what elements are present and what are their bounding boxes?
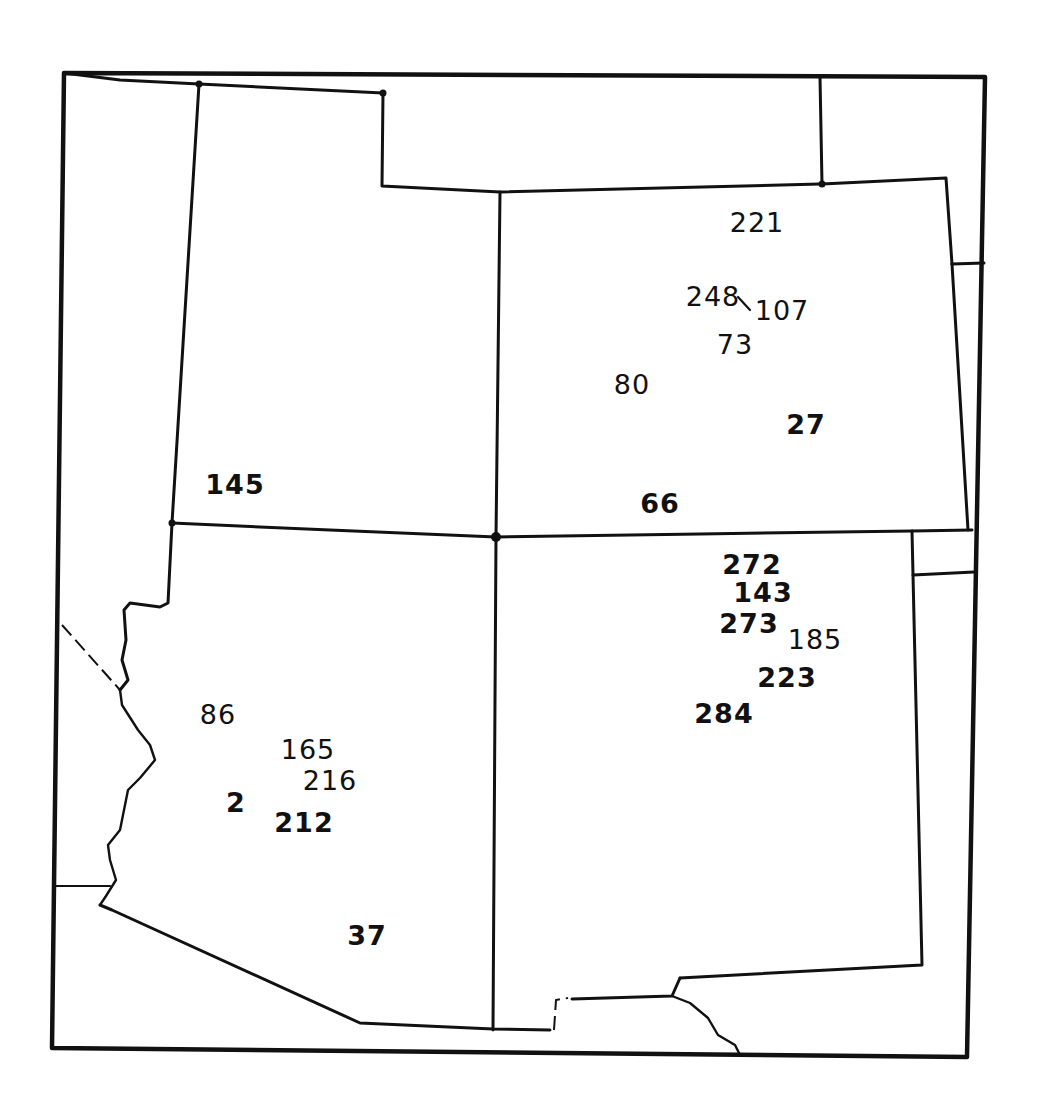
border-newmexico-mexico: [572, 978, 680, 999]
border-bootheel: [554, 998, 568, 1030]
map-canvas: [0, 0, 1037, 1111]
border-arizona-newmexico: [493, 537, 496, 1030]
colorado-river: [100, 690, 155, 905]
junction-idaho-wyoming: [380, 90, 387, 97]
site-label-223: 223: [757, 664, 816, 691]
junction-utah-nw: [196, 81, 203, 88]
site-label-272: 272: [722, 551, 781, 578]
site-label-66: 66: [640, 490, 680, 517]
site-label-143: 143: [733, 579, 792, 606]
border-wyoming-utah: [382, 93, 820, 192]
site-label-284: 284: [694, 700, 753, 727]
site-label-107: 107: [755, 297, 810, 324]
site-label-221: 221: [730, 209, 785, 236]
border-oklahoma-panhandle: [912, 531, 974, 575]
border-colorado-east: [952, 264, 968, 530]
site-label-165: 165: [281, 736, 336, 763]
site-label-86: 86: [200, 701, 236, 728]
site-label-273: 273: [719, 610, 778, 637]
site-label-2: 2: [226, 789, 246, 816]
border-california-nevada: [62, 625, 120, 690]
site-label-212: 212: [274, 809, 333, 836]
site-label-185: 185: [788, 626, 843, 653]
rio-grande: [672, 996, 740, 1055]
border-colorado-north: [822, 178, 952, 264]
border-arizona-nevada: [120, 523, 172, 690]
four-corners-point: [491, 532, 501, 542]
site-label-37: 37: [347, 922, 387, 949]
junction-wyoming: [819, 181, 826, 188]
border-wyoming-east: [820, 77, 822, 184]
site-label-145: 145: [205, 471, 264, 498]
border-arizona-mexico: [100, 905, 550, 1030]
border-nebraska-kansas: [952, 263, 984, 264]
site-label-216: 216: [303, 767, 358, 794]
site-label-248: 248: [686, 283, 741, 310]
border-utah-colorado: [496, 192, 500, 537]
site-label-27: 27: [786, 411, 826, 438]
site-label-80: 80: [614, 371, 650, 398]
border-37th-parallel: [172, 523, 972, 537]
site-label-73: 73: [717, 331, 753, 358]
border-nevada-utah: [172, 84, 199, 523]
junction-utah-sw: [169, 520, 176, 527]
